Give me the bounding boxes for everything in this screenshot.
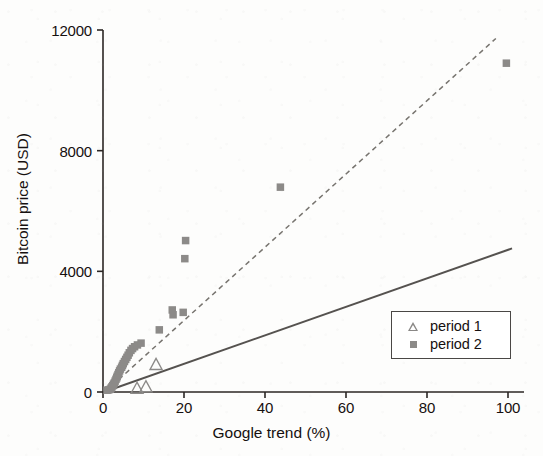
xtick-label-60: 60 — [338, 399, 354, 416]
legend-label-period-2: period 2 — [430, 336, 482, 352]
data-point-period-2 — [137, 339, 145, 347]
ytick-label-12000: 12000 — [28, 22, 92, 39]
series-period-1-markers — [131, 358, 162, 393]
triangle-marker-icon — [396, 322, 430, 331]
xtick-label-100: 100 — [496, 399, 520, 416]
xtick-label-80: 80 — [419, 399, 435, 416]
y-axis-label-wrapper: Bitcoin price (USD) — [14, 34, 32, 364]
square-marker-icon — [396, 341, 430, 348]
data-point-period-1 — [150, 358, 162, 369]
legend-entry-period-1: period 1 — [396, 317, 506, 335]
data-point-period-2 — [169, 311, 177, 319]
ytick-label-0: 0 — [28, 384, 92, 401]
data-point-period-2 — [156, 326, 164, 334]
xtick-label-20: 20 — [176, 399, 192, 416]
x-axis-ticks — [103, 392, 508, 398]
ytick-label-4000: 4000 — [28, 263, 92, 280]
ytick-label-8000: 8000 — [28, 143, 92, 160]
data-point-period-2 — [181, 255, 189, 263]
scatter-plot-figure: 0 4000 8000 12000 0 20 40 60 80 100 Goog… — [0, 0, 543, 456]
xtick-label-40: 40 — [257, 399, 273, 416]
legend-entry-period-2: period 2 — [396, 335, 506, 353]
data-point-period-2 — [277, 183, 285, 191]
data-point-period-2 — [179, 309, 187, 317]
data-point-period-2 — [182, 237, 190, 245]
y-axis-label: Bitcoin price (USD) — [14, 133, 31, 265]
legend-label-period-1: period 1 — [430, 318, 482, 334]
xtick-label-0: 0 — [99, 399, 107, 416]
x-axis-label: Google trend (%) — [0, 424, 543, 442]
chart-legend: period 1 period 2 — [391, 311, 511, 359]
data-point-period-2 — [503, 59, 511, 67]
y-axis-ticks — [97, 30, 103, 392]
